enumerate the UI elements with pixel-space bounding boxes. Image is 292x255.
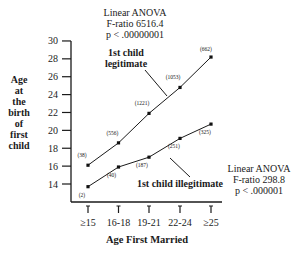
sample-size-label: (187) xyxy=(136,162,148,169)
x-tick-label: 19-21 xyxy=(137,217,160,228)
y-label-word: at xyxy=(15,85,24,96)
sample-size-label: (251) xyxy=(168,143,180,150)
x-tick-label: ≥25 xyxy=(203,217,219,228)
y-tick-label: 16 xyxy=(48,161,58,172)
sample-size-label: (38) xyxy=(77,152,86,159)
sample-size-label: (2) xyxy=(79,192,86,199)
y-label-word: first xyxy=(10,129,28,140)
sample-size-label: (556) xyxy=(107,130,119,137)
y-label-word: child xyxy=(8,140,30,151)
y-tick-label: 18 xyxy=(48,143,58,154)
x-ticks: ≥1516-1819-2122-24≥25 xyxy=(80,206,219,228)
sample-size-label: (1221) xyxy=(135,100,150,107)
line-chart: 141618202224262830 ≥1516-1819-2122-24≥25… xyxy=(0,0,292,255)
y-label-word: the xyxy=(12,96,26,107)
legitimate-series-label-line2: legitimate xyxy=(105,58,148,69)
illegitimate-pointer-line xyxy=(170,158,190,177)
y-label-word: Age xyxy=(11,74,28,85)
sample-size-label: (40) xyxy=(107,172,116,179)
y-label-word: of xyxy=(15,118,24,129)
sample-size-label: (662) xyxy=(200,46,212,53)
y-tick-label: 22 xyxy=(48,107,58,118)
legitimate-pointer-line xyxy=(145,70,167,96)
anova-illegit-line1: Linear ANOVA xyxy=(228,163,292,174)
data-point-marker xyxy=(117,141,120,144)
y-tick-label: 14 xyxy=(48,179,58,190)
anova-legit-line1: Linear ANOVA xyxy=(104,7,168,18)
data-point-marker xyxy=(178,137,181,140)
illegitimate-series-label: 1st child illegitimate xyxy=(137,178,224,189)
y-label-word: birth xyxy=(8,107,30,118)
x-tick-label: 16-18 xyxy=(107,217,130,228)
anova-illegit-line3: p < .000001 xyxy=(235,185,283,196)
y-tick-label: 26 xyxy=(48,71,58,82)
series-line xyxy=(88,57,211,165)
sample-size-label: (325) xyxy=(199,129,211,136)
y-tick-label: 28 xyxy=(48,53,58,64)
data-point-marker xyxy=(147,156,150,159)
y-axis-label: Ageatthebirthoffirstchild xyxy=(8,74,30,151)
y-ticks: 141618202224262830 xyxy=(48,35,71,189)
data-point-marker xyxy=(209,123,212,126)
anova-legit-line2: F-ratio 6516.4 xyxy=(106,18,163,29)
data-point-marker xyxy=(209,55,212,58)
y-tick-label: 24 xyxy=(48,89,58,100)
data-point-marker xyxy=(147,112,150,115)
x-tick-label: 22-24 xyxy=(168,217,191,228)
anova-illegit-line2: F-ratio 298.8 xyxy=(233,174,285,185)
legitimate-series-label-line1: 1st child xyxy=(108,47,144,58)
data-point-marker xyxy=(178,86,181,89)
x-tick-label: ≥15 xyxy=(80,217,96,228)
anova-legit-line3: p < .00000001 xyxy=(106,29,164,40)
sample-size-label: (1053) xyxy=(166,74,181,81)
y-tick-label: 20 xyxy=(48,125,58,136)
data-point-marker xyxy=(117,165,120,168)
data-point-marker xyxy=(86,164,89,167)
y-tick-label: 30 xyxy=(48,35,58,46)
x-axis-label: Age First Married xyxy=(106,234,188,245)
data-point-marker xyxy=(86,185,89,188)
